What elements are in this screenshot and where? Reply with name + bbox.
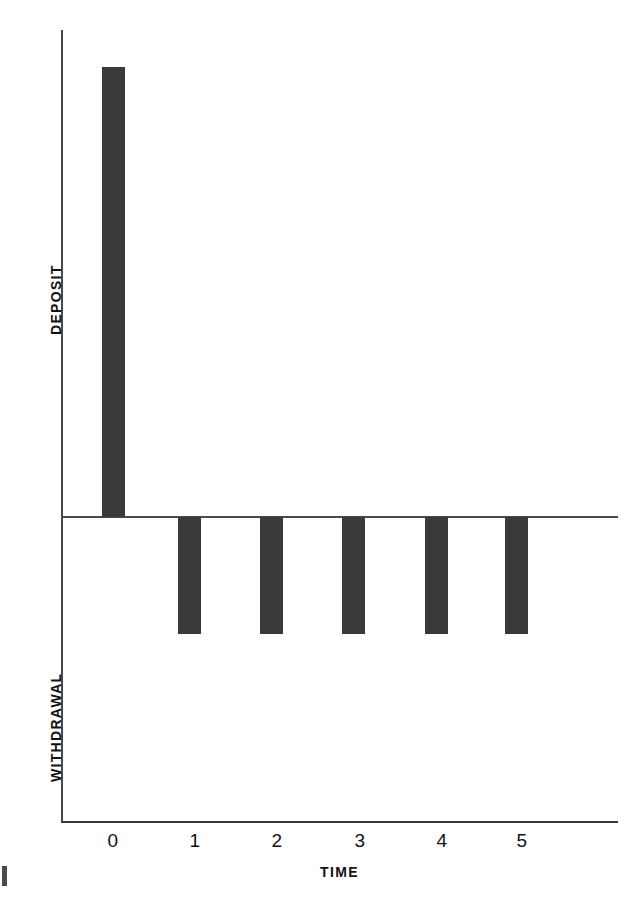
x-tick-label-1: 1 (175, 829, 215, 853)
bar-1 (178, 517, 201, 634)
x-tick-label-3: 3 (340, 829, 380, 853)
y-axis-label-withdrawal: WITHDRAWAL (48, 673, 64, 782)
page-edge-artifact (2, 866, 7, 886)
bar-5 (505, 517, 528, 634)
bar-2 (260, 517, 283, 634)
chart-figure: 012345 DEPOSIT WITHDRAWAL TIME (0, 0, 640, 903)
x-axis-title: TIME (61, 864, 618, 880)
x-tick-label-5: 5 (502, 829, 542, 853)
x-tick-label-4: 4 (422, 829, 462, 853)
x-tick-label-0: 0 (93, 829, 133, 853)
bar-3 (342, 517, 365, 634)
y-axis-label-deposit: DEPOSIT (48, 264, 64, 335)
x-tick-label-2: 2 (257, 829, 297, 853)
bar-0 (102, 67, 125, 517)
bar-4 (425, 517, 448, 634)
plot-area (61, 30, 618, 823)
